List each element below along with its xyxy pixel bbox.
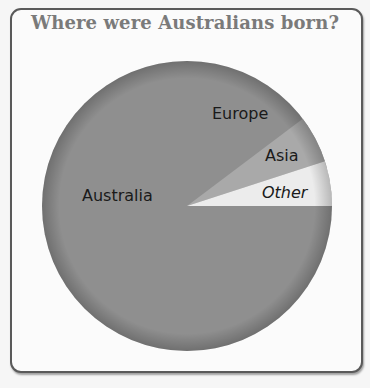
clipped-caption: [6, 380, 11, 388]
label-other: Other: [262, 183, 307, 202]
label-australia: Australia: [82, 186, 153, 205]
pie-edge-shading: [42, 61, 332, 351]
label-europe: Europe: [212, 104, 268, 123]
pie-chart: [0, 0, 370, 388]
label-asia: Asia: [265, 146, 299, 165]
